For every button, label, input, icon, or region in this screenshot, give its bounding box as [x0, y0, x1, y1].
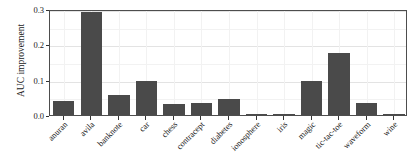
y-axis-tick-label: 0.3	[22, 6, 44, 14]
bar	[136, 81, 157, 115]
x-axis-tick-labels: anuranavilabanknotecarchesscontraceptdia…	[49, 120, 407, 162]
y-axis-tick-label: 0.1	[22, 77, 44, 85]
bar	[218, 99, 239, 115]
y-axis-tick-label: 0.2	[22, 41, 44, 49]
bar-series	[50, 11, 406, 115]
bar	[273, 114, 294, 115]
bar	[356, 103, 377, 115]
bar-chart-figure: AUC improvement 0.00.10.20.3 anuranavila…	[0, 0, 415, 162]
bar	[246, 114, 267, 115]
bar	[191, 103, 212, 115]
bar	[301, 81, 322, 115]
bar	[383, 114, 404, 115]
bar	[328, 53, 349, 115]
y-axis-tick-label: 0.0	[22, 112, 44, 120]
plot-panel	[49, 10, 407, 116]
bar	[108, 95, 129, 115]
bar	[163, 104, 184, 115]
bar	[53, 101, 74, 115]
y-axis-tick-labels: 0.00.10.20.3	[22, 0, 44, 162]
bar	[81, 12, 102, 115]
